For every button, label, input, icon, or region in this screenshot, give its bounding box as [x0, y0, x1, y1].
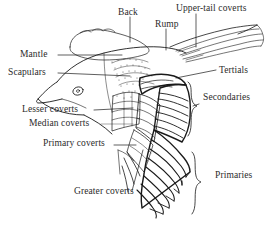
- leader-tertials: [176, 70, 216, 78]
- tail-upper-edge: [170, 25, 257, 47]
- label-secondaries: Secondaries: [203, 93, 250, 103]
- label-median-coverts: Median coverts: [29, 119, 89, 129]
- primary-tip-5: [158, 203, 169, 208]
- label-greater-coverts: Greater coverts: [74, 187, 134, 197]
- label-upper-tail-coverts: Upper-tail coverts: [176, 4, 246, 14]
- primaries-brace: [192, 152, 201, 214]
- body-upper-contour: [57, 47, 186, 82]
- eye-pupil: [76, 89, 80, 92]
- bird-line-drawing: [0, 0, 269, 229]
- tail-feather-line-2: [180, 34, 262, 55]
- leader-scapulars: [58, 73, 130, 76]
- far-wing-outline: [70, 30, 149, 60]
- label-lesser-coverts: Lesser coverts: [22, 105, 78, 115]
- lesser-covert-block: [112, 92, 140, 131]
- label-tertials: Tertials: [219, 66, 248, 76]
- primary-tip-6: [150, 209, 163, 214]
- label-rump: Rump: [155, 20, 179, 30]
- label-mantle: Mantle: [20, 50, 48, 60]
- bill-upper: [37, 82, 62, 103]
- eye-icon: [72, 86, 84, 97]
- secondary-5: [155, 119, 185, 131]
- label-back: Back: [118, 8, 138, 18]
- primary-1: [152, 140, 186, 177]
- primary-4: [146, 167, 174, 201]
- primary-2: [150, 149, 182, 185]
- tertial-line-1: [141, 80, 173, 84]
- body-flank-line: [104, 53, 112, 112]
- label-primary-coverts: Primary coverts: [43, 139, 105, 149]
- tail-feather-line-3: [183, 40, 263, 59]
- tail-lower-edge: [186, 46, 261, 62]
- label-scapulars: Scapulars: [8, 68, 46, 78]
- lesser-covert-row-1: [113, 101, 140, 104]
- median-covert-row-1: [112, 117, 139, 120]
- label-primaries: Primaries: [215, 171, 252, 181]
- bird-topography-figure: Back Rump Upper-tail coverts Mantle Scap…: [0, 0, 269, 229]
- primary-3: [148, 158, 179, 193]
- secondary-3: [157, 105, 188, 116]
- lesser-covert-row-2: [112, 109, 139, 112]
- outer-primary-edge: [118, 150, 120, 174]
- secondaries-brace: [188, 82, 197, 136]
- tail-tip-edge: [257, 25, 264, 46]
